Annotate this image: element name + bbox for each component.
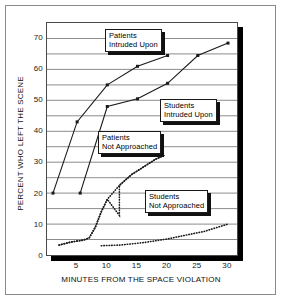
x-tick-5: 5 [74, 262, 79, 270]
annotation-patients-intruded: Patients Intruded Upon [105, 29, 162, 52]
x-tick-25: 25 [192, 262, 201, 270]
x-tick-15: 15 [132, 262, 141, 270]
series-students-not-approached [101, 224, 228, 246]
annotation-students-intruded: Students Intruded Upon [160, 99, 217, 122]
annotation-patients-not-approached-line2: Not Approached [102, 142, 157, 151]
x-axis-label: MINUTES FROM THE SPACE VIOLATION [0, 275, 282, 284]
annotation-students-not-approached-line1: Students [149, 192, 179, 201]
x-tick-20: 20 [162, 262, 171, 270]
annotation-students-not-approached: Students Not Approached [145, 190, 208, 213]
y-axis-label: PERCENT WHO LEFT THE SCENE [16, 44, 25, 244]
annotation-students-not-approached-line2: Not Approached [149, 201, 204, 210]
annotation-students-intruded-line2: Intruded Upon [164, 110, 213, 119]
annotation-students-intruded-line1: Students [164, 101, 194, 110]
annotation-patients-intruded-line1: Patients [109, 31, 137, 40]
series-patients-intruded-upon [52, 54, 170, 195]
y-tick-0: 0 [21, 252, 43, 260]
y-tick-70: 70 [21, 34, 43, 42]
annotation-patients-not-approached: Patients Not Approached [98, 131, 161, 154]
x-tick-10: 10 [102, 262, 111, 270]
x-axis-ticks: 5 10 15 20 25 30 [46, 262, 238, 274]
annotation-patients-not-approached-line1: Patients [102, 133, 130, 142]
x-tick-30: 30 [222, 262, 231, 270]
plot-area: Patients Intruded Upon Students Intruded… [46, 22, 238, 256]
annotation-patients-intruded-line2: Intruded Upon [109, 40, 158, 49]
chart-figure: 70 60 50 40 30 20 10 0 [0, 0, 282, 308]
